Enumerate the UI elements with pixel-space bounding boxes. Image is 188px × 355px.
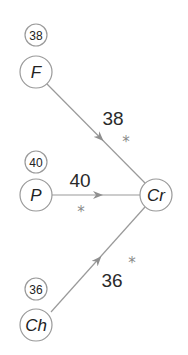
count-badge-ch: 36 [25, 278, 47, 300]
count-f: 38 [29, 29, 43, 43]
edge-f-to-cr [47, 84, 145, 183]
node-label-cr: Cr [147, 186, 166, 205]
node-label-ch: Ch [25, 316, 47, 335]
count-badge-p: 40 [25, 151, 47, 173]
count-badge-f: 38 [25, 24, 47, 46]
node-f: F [20, 56, 52, 88]
node-p: P [20, 179, 52, 211]
edge-value-p: 40 [69, 170, 90, 191]
node-label-f: F [31, 63, 43, 82]
node-label-p: P [30, 186, 42, 205]
significance-star-p: * [77, 203, 85, 221]
significance-star-ch: * [128, 254, 136, 272]
node-ch: Ch [20, 309, 52, 341]
edge-value-f: 38 [102, 108, 123, 129]
node-cr: Cr [140, 179, 172, 211]
count-p: 40 [29, 156, 43, 170]
path-diagram: 38 F 40 P 36 Ch Cr 38 * [0, 0, 188, 355]
significance-star-f: * [122, 133, 130, 151]
edge-value-ch: 36 [101, 270, 122, 291]
count-ch: 36 [29, 283, 43, 297]
